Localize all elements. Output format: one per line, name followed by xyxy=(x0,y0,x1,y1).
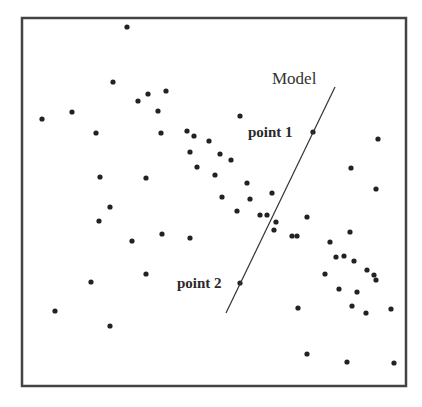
data-point xyxy=(273,219,278,224)
data-point xyxy=(364,267,369,272)
data-point xyxy=(159,231,164,236)
model-label: Model xyxy=(272,69,317,88)
data-point xyxy=(373,277,378,282)
data-point xyxy=(110,79,115,84)
data-point xyxy=(88,279,93,284)
data-point xyxy=(391,360,396,365)
data-point xyxy=(191,133,196,138)
data-point xyxy=(363,310,368,315)
data-point xyxy=(124,24,129,29)
model-line xyxy=(226,87,335,313)
data-point xyxy=(194,164,199,169)
data-point xyxy=(294,233,299,238)
data-point xyxy=(344,359,349,364)
data-point xyxy=(375,136,380,141)
point-1-label: point 1 xyxy=(248,124,293,140)
point-2-label: point 2 xyxy=(177,275,222,291)
data-point xyxy=(247,196,252,201)
data-point xyxy=(244,180,249,185)
data-point xyxy=(257,212,262,217)
data-point xyxy=(269,190,274,195)
data-point xyxy=(187,235,192,240)
point-annotations: point 1point 2 xyxy=(177,124,293,291)
data-point xyxy=(69,109,74,114)
data-point xyxy=(163,88,168,93)
data-point xyxy=(52,308,57,313)
data-point xyxy=(322,271,327,276)
data-point xyxy=(145,91,150,96)
data-point xyxy=(349,303,354,308)
plot-frame xyxy=(22,18,406,386)
data-points xyxy=(39,24,396,365)
data-point xyxy=(158,130,163,135)
data-point xyxy=(129,238,134,243)
data-point xyxy=(354,289,359,294)
data-point xyxy=(135,98,140,103)
data-point xyxy=(373,186,378,191)
data-point xyxy=(107,323,112,328)
data-point xyxy=(143,175,148,180)
data-point xyxy=(184,128,189,133)
data-point xyxy=(371,272,376,277)
data-point xyxy=(143,271,148,276)
data-point xyxy=(219,194,224,199)
data-point xyxy=(187,149,192,154)
data-point xyxy=(264,212,269,217)
data-point xyxy=(97,174,102,179)
data-point xyxy=(271,227,276,232)
scatter-figure: Model point 1point 2 xyxy=(0,0,422,407)
data-point xyxy=(304,351,309,356)
data-point xyxy=(333,254,338,259)
data-point xyxy=(327,239,332,244)
data-point xyxy=(348,165,353,170)
model-fit-diagram: Model point 1point 2 xyxy=(0,0,422,407)
data-point xyxy=(351,258,356,263)
data-point xyxy=(289,233,294,238)
data-point xyxy=(336,286,341,291)
data-point xyxy=(388,306,393,311)
data-point xyxy=(155,108,160,113)
data-point xyxy=(217,151,222,156)
data-point xyxy=(228,157,233,162)
data-point xyxy=(212,172,217,177)
data-point xyxy=(107,204,112,209)
data-point xyxy=(93,130,98,135)
data-point xyxy=(96,218,101,223)
data-point xyxy=(39,116,44,121)
data-point xyxy=(234,208,239,213)
data-point xyxy=(347,229,352,234)
data-point xyxy=(237,113,242,118)
data-point xyxy=(206,138,211,143)
data-point xyxy=(295,305,300,310)
data-point xyxy=(341,253,346,258)
data-point xyxy=(304,214,309,219)
